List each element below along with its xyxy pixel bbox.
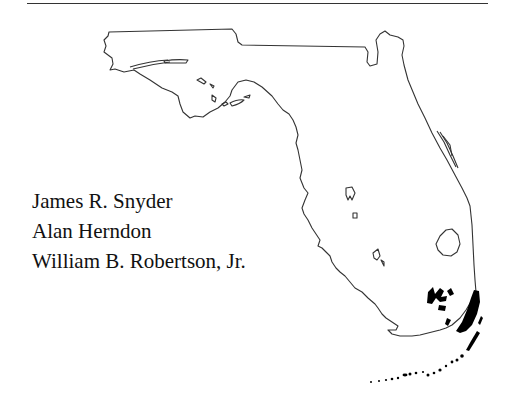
author-name: William B. Robertson, Jr.: [32, 246, 246, 276]
lake-okeechobee: [436, 229, 460, 256]
florida-outline: [104, 29, 476, 336]
author-name: James R. Snyder: [32, 186, 246, 216]
shaded-region-everglades: [456, 290, 480, 333]
author-name: Alan Herndon: [32, 216, 246, 246]
shaded-region-big-cypress: [427, 287, 447, 304]
author-list: James R. Snyder Alan Herndon William B. …: [32, 186, 246, 276]
